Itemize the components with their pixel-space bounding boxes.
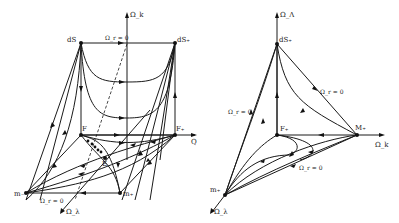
axis-arrow-icon <box>191 133 197 137</box>
label-F-plus: F₊ <box>176 125 185 133</box>
flow-arrow-icon <box>114 133 120 137</box>
annotation-left: Ω_r = 0 <box>228 108 252 116</box>
trajectory <box>81 135 175 143</box>
node-m-plus <box>223 193 227 197</box>
flow-arrow-icon <box>119 80 125 84</box>
axis-label-front: Ω_λ <box>66 208 80 216</box>
axis-label-q: Q <box>191 138 197 146</box>
trajectory <box>26 43 81 200</box>
flow-arrow-icon <box>300 108 305 113</box>
flow-arrow-icon <box>116 162 120 168</box>
flow-arrow-icon <box>118 41 124 45</box>
axis-arrow-icon <box>125 12 129 18</box>
flow-arrow-icon <box>80 191 86 195</box>
label-F: F <box>82 125 87 133</box>
axis-label-vertical: Ω_k <box>130 11 144 19</box>
left-phase-diagram: Ω_k Q Ω_λ dS dS₊ F F₊ E m₋ m₊ Ω_r = 0 Ω_… <box>14 11 197 216</box>
label-dS-plus: dS₊ <box>177 36 190 44</box>
axis-arrow-icon <box>379 133 385 137</box>
axis-label-front: Ω_λ <box>214 208 228 216</box>
label-dS: dS <box>67 36 76 44</box>
label-E: E <box>102 160 107 168</box>
phase-diagrams: Ω_k Q Ω_λ dS dS₊ F F₊ E m₋ m₊ Ω_r = 0 Ω_… <box>0 0 399 223</box>
node-F-plus <box>275 133 279 137</box>
node-F <box>79 133 83 137</box>
trajectory <box>81 43 175 118</box>
label-M-plus: M₊ <box>355 124 366 132</box>
node-m-plus <box>118 191 122 195</box>
trajectory <box>81 43 175 82</box>
annotation-bottom-edge: Ω_r = 0 <box>40 197 64 205</box>
flow-arrow-icon <box>79 86 83 92</box>
flow-arrow-icon <box>173 92 177 98</box>
label-m-plus: m₊ <box>123 190 134 198</box>
axis-arrow-icon <box>275 12 279 18</box>
annotation-bottom: Ω_r = 0 <box>299 164 323 172</box>
axis-label-k: Ω_k <box>375 141 389 149</box>
trajectory <box>277 44 357 135</box>
axis-label-vertical: Ω_Λ <box>280 11 295 19</box>
flow-arrow-icon <box>50 122 55 128</box>
label-m-minus: m₋ <box>14 190 25 198</box>
annotation-upper-right: Ω_r = 0 <box>320 88 344 96</box>
label-F-plus: F₊ <box>280 125 289 133</box>
label-dS-plus: dS₊ <box>279 36 292 44</box>
trajectory <box>135 43 175 200</box>
trajectory <box>150 43 175 200</box>
node-m-minus <box>24 191 28 195</box>
trajectory <box>122 43 175 200</box>
right-phase-diagram: Ω_Λ Ω_k Ω_λ dS₊ F₊ M₊ m₊ Ω_r = 0 Ω_r = 0… <box>210 11 389 216</box>
flow-arrow-icon <box>261 118 265 124</box>
label-m-plus: m₊ <box>210 186 221 194</box>
flow-arrow-icon <box>119 116 125 120</box>
node-M-plus <box>355 133 359 137</box>
flow-arrow-icon <box>318 133 324 137</box>
node-dS <box>79 41 83 45</box>
trajectory <box>225 135 277 195</box>
annotation-top-edge: Ω_r = 0 <box>105 34 129 42</box>
trajectory <box>225 155 290 195</box>
node-F-plus <box>173 133 177 137</box>
flow-arrow-icon <box>275 92 279 98</box>
trajectory <box>120 135 175 193</box>
